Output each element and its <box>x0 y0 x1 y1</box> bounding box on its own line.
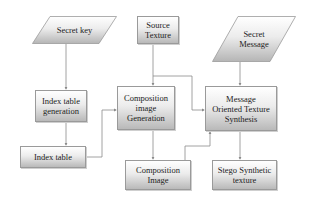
source-texture-label: SourceTexture <box>145 20 171 40</box>
edge-index-table-to-composition-image-generation <box>86 110 116 157</box>
composition-image-generation-node: CompositionimageGeneration <box>117 86 175 130</box>
index-table-generation-label: Index tablegeneration <box>42 96 80 116</box>
stego-synthetic-texture-label: Stego Synthetictexture <box>218 165 272 185</box>
composition-image-generation-label: CompositionimageGeneration <box>124 93 168 123</box>
secret-key-label: Secret key <box>57 25 93 35</box>
edge-composition-image-to-message-synthesis <box>185 132 210 160</box>
index-table-generation-node: Index tablegeneration <box>35 90 87 122</box>
message-synthesis-label: MessageOriented TextureSynthesis <box>212 94 270 124</box>
secret-message-node: SecretMessage <box>212 16 296 62</box>
message-oriented-texture-synthesis-node: MessageOriented TextureSynthesis <box>205 86 277 131</box>
secret-message-label: SecretMessage <box>239 29 269 49</box>
composition-image-node: CompositionImage <box>125 160 191 190</box>
secret-key-node: Secret key <box>32 16 117 44</box>
index-table-label: Index table <box>34 152 72 162</box>
source-texture-node: SourceTexture <box>137 16 179 44</box>
index-table-node: Index table <box>20 146 86 168</box>
composition-image-label: CompositionImage <box>136 165 180 185</box>
stego-synthetic-texture-node: Stego Synthetictexture <box>212 160 277 190</box>
